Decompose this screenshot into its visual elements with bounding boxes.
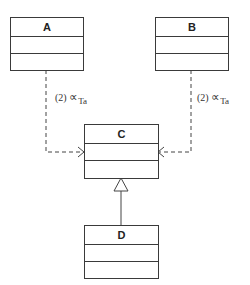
class-name: D	[85, 226, 158, 245]
class-b[interactable]: B	[155, 17, 229, 71]
relation-label-b-c: (2) ∝Ta	[197, 90, 229, 106]
proportional-icon: ∝	[211, 90, 220, 104]
class-operations	[156, 54, 228, 69]
dependency-a-c	[46, 70, 84, 152]
class-name: B	[156, 18, 228, 37]
label-index: (2)	[197, 92, 209, 103]
class-operations	[11, 54, 83, 69]
hollow-triangle-icon	[114, 178, 128, 191]
class-name: A	[11, 18, 83, 37]
dependency-b-c	[158, 70, 191, 152]
class-attributes	[11, 37, 83, 54]
label-index: (2)	[55, 92, 67, 103]
class-operations	[85, 161, 158, 176]
label-subscript: Ta	[220, 96, 229, 106]
relation-label-a-c: (2) ∝Ta	[55, 90, 87, 106]
label-subscript: Ta	[78, 96, 87, 106]
class-operations	[85, 262, 158, 277]
class-a[interactable]: A	[10, 17, 84, 71]
class-name: C	[85, 125, 158, 144]
class-c[interactable]: C	[84, 124, 159, 179]
proportional-icon: ∝	[69, 90, 78, 104]
class-d[interactable]: D	[84, 225, 159, 279]
class-attributes	[85, 245, 158, 262]
class-attributes	[85, 144, 158, 161]
class-attributes	[156, 37, 228, 54]
